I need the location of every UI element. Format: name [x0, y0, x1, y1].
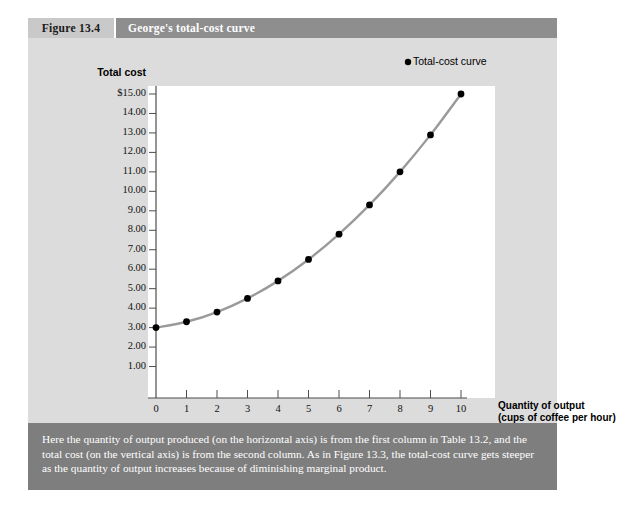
y-axis-tick-label: 1.00	[54, 360, 146, 371]
data-point-marker	[458, 91, 465, 98]
data-point-marker	[275, 277, 282, 284]
y-axis-tick-label: $15.00	[54, 87, 146, 98]
figure-caption-text: Here the quantity of output produced (on…	[28, 423, 557, 476]
y-axis-tick-label: 12.00	[54, 145, 146, 156]
y-axis-title: Total cost	[58, 66, 146, 78]
data-point-marker	[214, 309, 221, 316]
x-axis-title: Quantity of output (cups of coffee per h…	[498, 400, 620, 424]
y-axis-tick-label: 14.00	[54, 106, 146, 117]
figure-number-label: Figure 13.4	[42, 22, 101, 34]
data-point-marker	[153, 324, 160, 331]
y-axis-tick-label: 7.00	[54, 243, 146, 254]
total-cost-curve-line	[156, 94, 461, 328]
y-axis-tick-label: 2.00	[54, 340, 146, 351]
y-axis-tick-label: 4.00	[54, 301, 146, 312]
data-point-marker	[336, 231, 343, 238]
y-axis-tick-label: 6.00	[54, 262, 146, 273]
x-axis-tick-label: 10	[441, 403, 481, 414]
data-point-marker	[244, 295, 251, 302]
annotation-marker	[405, 59, 411, 65]
y-axis-tick-label: 13.00	[54, 126, 146, 137]
y-axis-tick-label: 10.00	[54, 184, 146, 195]
data-point-marker	[427, 131, 434, 138]
figure-caption-block: Here the quantity of output produced (on…	[28, 423, 557, 490]
curve-annotation-label: Total-cost curve	[413, 55, 487, 67]
y-axis-tick-label: 11.00	[54, 165, 146, 176]
figure-title: George's total-cost curve	[116, 22, 255, 34]
data-point-marker	[397, 168, 404, 175]
data-point-marker	[305, 256, 312, 263]
x-axis-title-line1: Quantity of output	[498, 400, 585, 411]
y-axis-tick-label: 8.00	[54, 223, 146, 234]
data-point-marker	[366, 202, 373, 209]
figure-title-bar: George's total-cost curve	[116, 18, 557, 38]
chart-area: Total cost Quantity of output (cups of c…	[28, 38, 557, 423]
data-point-marker	[183, 318, 190, 325]
y-axis-tick-label: 9.00	[54, 204, 146, 215]
figure-header: Figure 13.4 George's total-cost curve	[28, 18, 557, 38]
y-axis-tick-label: 5.00	[54, 282, 146, 293]
figure-block: Figure 13.4 George's total-cost curve To…	[28, 18, 557, 490]
y-axis-tick-label: 3.00	[54, 321, 146, 332]
figure-number-tab: Figure 13.4	[28, 18, 114, 38]
